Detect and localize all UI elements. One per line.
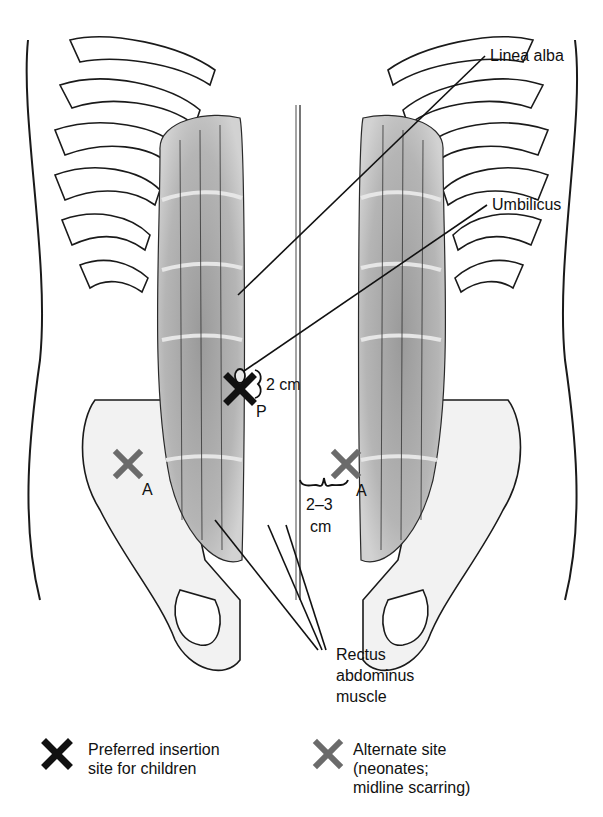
label-linea-alba: Linea alba <box>490 46 564 65</box>
label-two-cm: 2 cm <box>266 375 301 394</box>
legend-alternate-line-1: Alternate site <box>353 740 470 759</box>
label-umbilicus: Umbilicus <box>492 195 561 214</box>
legend-gray-x-icon <box>317 743 339 765</box>
two-three-cm-brace <box>300 478 348 486</box>
legend-preferred-line-2: site for children <box>88 759 220 778</box>
rectus-abdominus-muscle <box>158 105 446 600</box>
label-alternate-a-left: A <box>142 480 153 499</box>
legend-alternate-line-2: (neonates; <box>353 759 470 778</box>
legend-black-x-icon <box>46 743 68 765</box>
label-rectus: Rectus <box>336 645 386 664</box>
legend-preferred-line-1: Preferred insertion <box>88 740 220 759</box>
label-muscle: muscle <box>336 687 387 706</box>
label-abdominus: abdominus <box>336 666 414 685</box>
label-alternate-a-right: A <box>356 481 367 500</box>
label-two-three: 2–3 <box>306 495 333 514</box>
label-preferred-p: P <box>256 402 267 421</box>
legend-item-alternate: Alternate site (neonates; midline scarri… <box>345 740 470 797</box>
abdomen-anatomy-illustration <box>0 0 603 817</box>
two-cm-brace <box>255 370 261 398</box>
alternate-site-right-x-icon <box>335 453 357 475</box>
legend-alternate-line-3: midline scarring) <box>353 778 470 797</box>
legend-item-preferred: Preferred insertion site for children <box>80 740 220 778</box>
label-cm: cm <box>310 517 331 536</box>
